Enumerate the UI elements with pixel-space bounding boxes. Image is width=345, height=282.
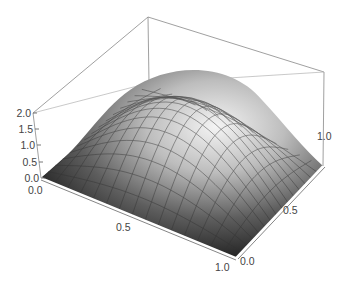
surface-plot: 2.0 1.5 1.0 0.5 0.0 0.0 0.5 1.0 0.0 0.5 …: [0, 0, 345, 282]
y-tick-0.5: 0.5: [283, 204, 298, 216]
z-tick-0.0: 0.0: [24, 172, 39, 184]
z-tick-1.0: 1.0: [20, 139, 35, 151]
z-tick-2.0: 2.0: [16, 107, 31, 119]
x-tick-0.0: 0.0: [28, 184, 43, 196]
z-tick-1.5: 1.5: [18, 123, 33, 135]
z-tick-0.5: 0.5: [22, 156, 37, 168]
y-tick-0.0: 0.0: [240, 255, 255, 267]
x-tick-1.0: 1.0: [215, 261, 230, 273]
y-tick-1.0: 1.0: [317, 130, 332, 142]
x-tick-0.5: 0.5: [116, 221, 131, 233]
surface: [41, 70, 323, 258]
